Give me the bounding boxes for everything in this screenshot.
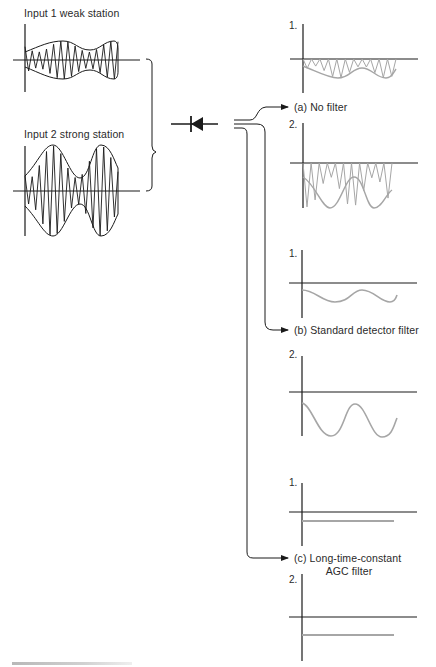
figure-caption-cutoff xyxy=(12,662,132,665)
plot-b1 xyxy=(289,250,417,318)
output-c-label-line2: AGC filter xyxy=(294,565,404,577)
plot-a2-number: 2. xyxy=(289,119,297,130)
plot-c2 xyxy=(289,574,417,661)
plot-c1 xyxy=(289,483,417,546)
input-brace xyxy=(146,59,156,191)
plot-a2 xyxy=(290,123,418,208)
input2-label: Input 2 strong station xyxy=(24,128,124,140)
plot-a1 xyxy=(290,24,418,93)
route-c xyxy=(234,128,288,558)
input2-waveform xyxy=(13,145,140,236)
plot-b2 xyxy=(289,356,417,437)
plot-c2-number: 2. xyxy=(289,574,297,585)
plot-a1-number: 1. xyxy=(289,20,297,31)
output-b-label: (b) Standard detector filter xyxy=(294,324,419,336)
output-a-label: (a) No filter xyxy=(294,101,347,113)
diode-symbol xyxy=(171,116,218,132)
input1-waveform xyxy=(13,24,140,92)
input1-label: Input 1 weak station xyxy=(24,7,119,19)
plot-c1-number: 1. xyxy=(289,477,297,488)
output-c-label-line1: (c) Long-time-constant xyxy=(294,552,401,564)
route-a xyxy=(234,107,288,120)
plot-b2-number: 2. xyxy=(289,349,297,360)
plot-b1-number: 1. xyxy=(289,248,297,259)
route-b xyxy=(234,124,288,330)
